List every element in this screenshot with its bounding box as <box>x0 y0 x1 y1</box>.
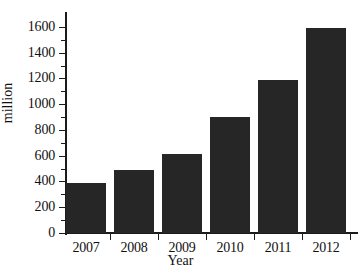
y-axis-tick <box>59 104 66 105</box>
y-axis-tick <box>59 181 66 182</box>
y-axis-tick <box>59 53 66 54</box>
plot-area <box>66 14 357 233</box>
y-axis-title: million <box>1 73 15 133</box>
x-axis-tick <box>350 234 351 240</box>
y-axis-tick-label: 1400 <box>28 46 55 60</box>
y-axis-tick <box>59 27 66 28</box>
y-axis-tick-label: 200 <box>35 200 55 214</box>
x-axis-title: Year <box>0 254 361 268</box>
x-axis-tick <box>206 234 207 240</box>
bar <box>66 183 106 233</box>
y-axis-tick-label: 1200 <box>28 71 55 85</box>
y-axis-tick <box>59 156 66 157</box>
y-axis-tick <box>59 207 66 208</box>
x-axis-tick-label: 2012 <box>296 241 356 255</box>
x-axis-tick <box>302 234 303 240</box>
y-axis-tick <box>59 233 66 234</box>
bar <box>114 170 154 233</box>
bar <box>306 28 346 233</box>
y-axis-tick-label: 600 <box>35 149 55 163</box>
y-axis-tick-label: 0 <box>48 226 55 240</box>
y-axis-tick <box>59 78 66 79</box>
bar-chart: 02004006008001000120014001600 2007200820… <box>0 0 361 270</box>
y-axis-tick-label: 400 <box>35 174 55 188</box>
bar <box>162 154 202 233</box>
x-axis-tick <box>158 234 159 240</box>
x-axis-tick <box>254 234 255 240</box>
bar <box>258 80 298 233</box>
y-axis-tick-label: 1600 <box>28 20 55 34</box>
y-axis-tick <box>59 130 66 131</box>
y-axis-tick-label: 1000 <box>28 97 55 111</box>
bar <box>210 117 250 233</box>
y-axis-tick-label: 800 <box>35 123 55 137</box>
x-axis-tick <box>110 234 111 240</box>
